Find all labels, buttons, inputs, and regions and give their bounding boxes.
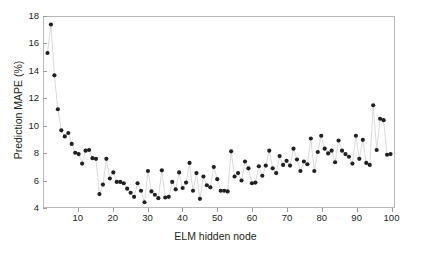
data-point-marker bbox=[239, 178, 243, 182]
data-point-marker bbox=[302, 159, 306, 163]
data-point-marker bbox=[354, 134, 358, 138]
plot-area bbox=[43, 16, 395, 208]
data-point-marker bbox=[122, 181, 126, 185]
data-point-marker bbox=[194, 171, 198, 175]
x-tick-label: 30 bbox=[142, 212, 153, 223]
data-point-marker bbox=[357, 157, 361, 161]
data-point-marker bbox=[260, 174, 264, 178]
y-tick-label: 16 bbox=[28, 38, 39, 48]
x-tick-label: 60 bbox=[247, 212, 258, 223]
y-tick-mark bbox=[43, 181, 47, 182]
x-tick-mark bbox=[113, 208, 114, 212]
data-point-marker bbox=[163, 195, 167, 199]
data-point-marker bbox=[142, 200, 146, 204]
x-tick-mark bbox=[78, 208, 79, 212]
y-tick-label: 4 bbox=[34, 203, 39, 213]
y-tick-mark bbox=[43, 208, 47, 209]
data-point-marker bbox=[87, 148, 91, 152]
data-point-marker bbox=[333, 160, 337, 164]
data-point-marker bbox=[274, 171, 278, 175]
data-point-marker bbox=[281, 163, 285, 167]
data-point-marker bbox=[177, 170, 181, 174]
data-point-marker bbox=[153, 193, 157, 197]
data-point-marker bbox=[385, 153, 389, 157]
x-tick-label: 20 bbox=[107, 212, 118, 223]
data-point-marker bbox=[156, 196, 160, 200]
data-point-marker bbox=[208, 185, 212, 189]
data-point-marker bbox=[70, 142, 74, 146]
data-point-marker bbox=[382, 118, 386, 122]
data-point-marker bbox=[167, 195, 171, 199]
x-tick-mark bbox=[287, 208, 288, 212]
data-point-marker bbox=[284, 159, 288, 163]
y-tick-label: 18 bbox=[28, 11, 39, 21]
data-point-marker bbox=[243, 159, 247, 163]
data-point-marker bbox=[278, 154, 282, 158]
y-tick-mark bbox=[43, 71, 47, 72]
y-tick-label: 10 bbox=[28, 121, 39, 131]
data-point-marker bbox=[323, 147, 327, 151]
data-point-marker bbox=[135, 181, 139, 185]
x-tick-mark bbox=[252, 208, 253, 212]
data-point-marker bbox=[257, 164, 261, 168]
data-point-marker bbox=[111, 170, 115, 174]
data-point-marker bbox=[319, 134, 323, 138]
data-point-marker bbox=[350, 161, 354, 165]
data-point-marker bbox=[101, 183, 105, 187]
x-tick-label: 50 bbox=[212, 212, 223, 223]
data-point-marker bbox=[49, 22, 53, 26]
data-point-marker bbox=[139, 189, 143, 193]
data-point-marker bbox=[326, 151, 330, 155]
data-point-marker bbox=[250, 181, 254, 185]
data-point-marker bbox=[236, 171, 240, 175]
data-point-marker bbox=[229, 149, 233, 153]
series-line bbox=[47, 24, 390, 202]
data-point-marker bbox=[375, 148, 379, 152]
data-point-marker bbox=[336, 138, 340, 142]
y-tick-mark bbox=[43, 126, 47, 127]
data-point-marker bbox=[368, 163, 372, 167]
data-point-marker bbox=[309, 136, 313, 140]
data-point-marker bbox=[90, 156, 94, 160]
y-tick-mark bbox=[43, 16, 47, 17]
data-point-marker bbox=[174, 187, 178, 191]
data-point-marker bbox=[125, 187, 129, 191]
data-point-marker bbox=[56, 107, 60, 111]
data-point-marker bbox=[132, 195, 136, 199]
data-point-marker bbox=[295, 157, 299, 161]
data-point-marker bbox=[343, 152, 347, 156]
data-point-marker bbox=[97, 192, 101, 196]
y-tick-label: 8 bbox=[34, 148, 39, 158]
data-point-marker bbox=[170, 180, 174, 184]
y-tick-mark bbox=[43, 98, 47, 99]
data-point-marker bbox=[253, 180, 257, 184]
x-tick-mark bbox=[322, 208, 323, 212]
data-point-marker bbox=[246, 166, 250, 170]
y-tick-label: 12 bbox=[28, 93, 39, 103]
y-tick-label: 14 bbox=[28, 66, 39, 76]
data-point-marker bbox=[340, 149, 344, 153]
data-point-marker bbox=[361, 138, 365, 142]
data-point-marker bbox=[347, 155, 351, 159]
data-point-marker bbox=[94, 157, 98, 161]
x-tick-mark bbox=[148, 208, 149, 212]
data-point-marker bbox=[129, 191, 133, 195]
data-point-marker bbox=[108, 176, 112, 180]
data-point-marker bbox=[184, 180, 188, 184]
x-tick-label: 90 bbox=[351, 212, 362, 223]
x-tick-mark bbox=[217, 208, 218, 212]
x-tick-label: 80 bbox=[317, 212, 328, 223]
data-point-marker bbox=[226, 189, 230, 193]
x-tick-mark bbox=[357, 208, 358, 212]
data-point-marker bbox=[80, 161, 84, 165]
data-point-marker bbox=[371, 103, 375, 107]
data-point-marker bbox=[316, 150, 320, 154]
data-point-marker bbox=[291, 147, 295, 151]
data-point-marker bbox=[201, 174, 205, 178]
y-axis-title: Prediction MAPE (%) bbox=[12, 30, 24, 190]
data-point-marker bbox=[83, 149, 87, 153]
y-tick-mark bbox=[43, 153, 47, 154]
data-point-marker bbox=[77, 152, 81, 156]
data-point-marker bbox=[298, 169, 302, 173]
x-tick-label: 100 bbox=[384, 212, 400, 223]
